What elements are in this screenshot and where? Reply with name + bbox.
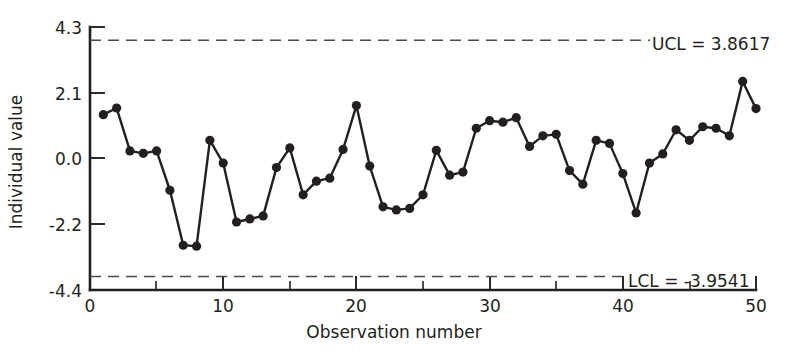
data-point (725, 131, 734, 140)
data-point (99, 110, 108, 119)
data-point (152, 146, 161, 155)
data-point (205, 136, 214, 145)
y-tick-label-3: -2.2 (49, 215, 82, 235)
data-point (738, 77, 747, 86)
data-point (392, 205, 401, 214)
x-tick-label-0: 0 (85, 296, 96, 316)
data-point (325, 174, 334, 183)
y-tick-label-4: -4.4 (49, 281, 82, 301)
data-point (259, 211, 268, 220)
y-tick-label-1: 2.1 (55, 84, 82, 104)
x-tick-label-1: 10 (212, 296, 234, 316)
data-point (472, 124, 481, 133)
y-axis-tick-labels: 4.3 2.1 0.0 -2.2 -4.4 (49, 18, 82, 301)
data-point (378, 202, 387, 211)
individuals-control-chart: 4.3 2.1 0.0 -2.2 -4.4 0 10 20 30 40 (0, 0, 789, 355)
lcl-label: LCL = -3.9541 (628, 271, 749, 291)
data-point (552, 130, 561, 139)
ucl-label: UCL = 3.8617 (652, 34, 770, 54)
y-axis-title: Individual value (6, 95, 26, 230)
data-point (112, 103, 121, 112)
data-point (485, 116, 494, 125)
control-chart-figure: 4.3 2.1 0.0 -2.2 -4.4 0 10 20 30 40 (0, 0, 789, 355)
x-tick-label-3: 30 (479, 296, 501, 316)
data-point (405, 204, 414, 213)
data-point (352, 101, 361, 110)
data-point (578, 180, 587, 189)
y-tick-label-0: 4.3 (55, 18, 82, 38)
data-point (525, 142, 534, 151)
data-point (338, 145, 347, 154)
data-point (632, 208, 641, 217)
data-point (618, 169, 627, 178)
data-point (698, 122, 707, 131)
data-point (498, 118, 507, 127)
x-axis-tick-labels: 0 10 20 30 40 50 (85, 296, 767, 316)
data-point (605, 139, 614, 148)
x-tick-label-5: 50 (745, 296, 767, 316)
x-axis-title: Observation number (306, 322, 481, 342)
data-point (538, 131, 547, 140)
data-point (445, 171, 454, 180)
data-point (418, 190, 427, 199)
data-point (565, 166, 574, 175)
data-point (285, 143, 294, 152)
data-point (512, 113, 521, 122)
data-point (711, 124, 720, 133)
data-point (125, 146, 134, 155)
data-point (592, 136, 601, 145)
data-point (219, 158, 228, 167)
data-point (245, 214, 254, 223)
data-point (658, 149, 667, 158)
data-point (432, 146, 441, 155)
data-point (139, 149, 148, 158)
x-tick-label-2: 20 (345, 296, 367, 316)
data-point (165, 186, 174, 195)
data-point (685, 136, 694, 145)
x-tick-label-4: 40 (612, 296, 634, 316)
data-point (671, 125, 680, 134)
data-point (645, 158, 654, 167)
data-point (458, 168, 467, 177)
y-tick-label-2: 0.0 (55, 149, 82, 169)
data-point (299, 190, 308, 199)
data-point (192, 242, 201, 251)
data-point (272, 163, 281, 172)
data-series-group (99, 77, 761, 251)
data-point (232, 217, 241, 226)
data-point (312, 177, 321, 186)
data-point (751, 104, 760, 113)
data-point (179, 241, 188, 250)
series-line-0 (103, 81, 756, 246)
y-axis-ticks (90, 27, 105, 290)
data-point (365, 161, 374, 170)
